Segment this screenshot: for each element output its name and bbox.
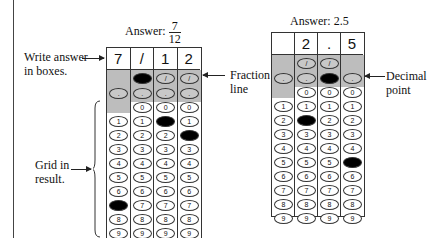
digit-bubble-1[interactable]: 1 — [133, 116, 152, 127]
digit-bubble-3[interactable]: 3 — [133, 144, 152, 155]
decimal-bubble[interactable]: . — [343, 73, 362, 84]
fraction-bubble-filled[interactable] — [133, 73, 152, 84]
digit-bubble-6[interactable]: 6 — [133, 186, 152, 197]
answer-box-3[interactable]: . — [318, 33, 341, 55]
fraction-line-note: Fraction line — [230, 68, 270, 96]
decimal-bubble-filled[interactable] — [320, 73, 339, 84]
digit-bubble-filled-2[interactable] — [180, 130, 199, 141]
answer-box-1[interactable]: 7 — [107, 48, 131, 70]
digit-bubble-7[interactable]: 7 — [156, 200, 175, 211]
digit-bubble-7[interactable]: 7 — [343, 185, 362, 196]
digit-bubble-3[interactable]: 3 — [343, 129, 362, 140]
digit-bubble-6[interactable]: 6 — [297, 171, 316, 182]
digit-bubble-4[interactable]: 4 — [180, 158, 199, 169]
digit-bubble-9[interactable]: 9 — [320, 213, 339, 224]
digit-bubble-0[interactable]: 0 — [156, 102, 175, 113]
digit-bubble-5[interactable]: 5 — [297, 157, 316, 168]
digit-bubble-6[interactable]: 6 — [180, 186, 199, 197]
digit-bubble-0[interactable]: 0 — [320, 87, 339, 98]
digit-bubble-2[interactable]: 2 — [343, 115, 362, 126]
digit-bubble-4[interactable]: 4 — [297, 143, 316, 154]
digit-bubble-6[interactable]: 6 — [320, 171, 339, 182]
digit-bubble-0[interactable]: 0 — [133, 102, 152, 113]
digit-bubble-8[interactable]: 8 — [133, 214, 152, 225]
digit-bubble-5[interactable]: 5 — [180, 172, 199, 183]
answer-box-4[interactable]: 2 — [178, 48, 201, 70]
digit-bubble-1[interactable]: 1 — [180, 116, 199, 127]
answer-box-2[interactable]: 2 — [295, 33, 318, 55]
decimal-bubble[interactable]: . — [180, 88, 199, 99]
digit-bubble-1[interactable]: 1 — [343, 101, 362, 112]
digit-bubble-4[interactable]: 4 — [320, 143, 339, 154]
note-line-2: in boxes. — [24, 64, 88, 78]
fraction-bubble[interactable]: / — [320, 58, 339, 69]
digit-bubble-5[interactable]: 5 — [274, 157, 293, 168]
digit-bubble-1[interactable]: 1 — [109, 116, 128, 127]
fraction-bubble[interactable]: / — [297, 58, 316, 69]
digit-bubble-9[interactable]: 9 — [274, 213, 293, 224]
digit-bubble-7[interactable]: 7 — [180, 200, 199, 211]
digit-bubble-9[interactable]: 9 — [109, 228, 128, 238]
digit-bubble-3[interactable]: 3 — [156, 144, 175, 155]
digit-bubble-3[interactable]: 3 — [109, 144, 128, 155]
digit-bubble-6[interactable]: 6 — [109, 186, 128, 197]
digit-bubble-1[interactable]: 1 — [274, 101, 293, 112]
digit-bubble-8[interactable]: 8 — [343, 199, 362, 210]
digit-bubble-4[interactable]: 4 — [156, 158, 175, 169]
digit-bubble-9[interactable]: 9 — [180, 228, 199, 238]
zero-row-blank — [107, 102, 131, 113]
digit-bubble-5[interactable]: 5 — [109, 172, 128, 183]
digit-bubble-1[interactable]: 1 — [297, 101, 316, 112]
digit-bubble-4[interactable]: 4 — [109, 158, 128, 169]
digit-bubble-7[interactable]: 7 — [320, 185, 339, 196]
fraction-bubble[interactable]: / — [180, 73, 199, 84]
digit-bubble-9[interactable]: 9 — [297, 213, 316, 224]
digit-bubble-filled-2[interactable] — [297, 115, 316, 126]
digit-bubble-7[interactable]: 7 — [274, 185, 293, 196]
digit-bubble-7[interactable]: 7 — [133, 200, 152, 211]
answer-box-2[interactable]: / — [131, 48, 155, 70]
digit-bubble-8[interactable]: 8 — [180, 214, 199, 225]
digit-bubble-8[interactable]: 8 — [320, 199, 339, 210]
digit-bubble-filled-5[interactable] — [343, 157, 362, 168]
digit-bubble-6[interactable]: 6 — [156, 186, 175, 197]
digit-bubble-9[interactable]: 9 — [133, 228, 152, 238]
digit-bubble-0[interactable]: 0 — [180, 102, 199, 113]
digit-bubble-8[interactable]: 8 — [156, 214, 175, 225]
digit-bubble-0[interactable]: 0 — [297, 87, 316, 98]
grid-in-note: Grid in result. — [35, 158, 69, 186]
digit-bubble-3[interactable]: 3 — [274, 129, 293, 140]
decimal-bubble[interactable]: . — [297, 73, 316, 84]
digit-bubble-3[interactable]: 3 — [180, 144, 199, 155]
answer-box-3[interactable]: 1 — [154, 48, 178, 70]
digit-bubble-2[interactable]: 2 — [320, 115, 339, 126]
digit-bubble-filled-1[interactable] — [156, 116, 175, 127]
digit-bubble-4[interactable]: 4 — [343, 143, 362, 154]
digit-bubble-8[interactable]: 8 — [109, 214, 128, 225]
digit-bubble-1[interactable]: 1 — [320, 101, 339, 112]
digit-bubble-8[interactable]: 8 — [274, 199, 293, 210]
decimal-bubble[interactable]: . — [274, 73, 293, 84]
digit-bubble-3[interactable]: 3 — [320, 129, 339, 140]
digit-bubble-8[interactable]: 8 — [297, 199, 316, 210]
digit-bubble-2[interactable]: 2 — [274, 115, 293, 126]
digit-bubble-5[interactable]: 5 — [133, 172, 152, 183]
digit-bubble-2[interactable]: 2 — [133, 130, 152, 141]
digit-bubble-0[interactable]: 0 — [343, 87, 362, 98]
digit-bubble-3[interactable]: 3 — [297, 129, 316, 140]
digit-bubble-4[interactable]: 4 — [133, 158, 152, 169]
digit-bubble-9[interactable]: 9 — [343, 213, 362, 224]
digit-bubble-9[interactable]: 9 — [156, 228, 175, 238]
decimal-bubble[interactable]: . — [133, 88, 152, 99]
digit-bubble-6[interactable]: 6 — [274, 171, 293, 182]
digit-bubble-7[interactable]: 7 — [297, 185, 316, 196]
digit-bubble-5[interactable]: 5 — [156, 172, 175, 183]
digit-bubble-2[interactable]: 2 — [109, 130, 128, 141]
digit-bubble-2[interactable]: 2 — [156, 130, 175, 141]
answer-box-1[interactable] — [272, 33, 295, 55]
digit-bubble-5[interactable]: 5 — [320, 157, 339, 168]
digit-bubble-6[interactable]: 6 — [343, 171, 362, 182]
digit-bubble-4[interactable]: 4 — [274, 143, 293, 154]
answer-box-4[interactable]: 5 — [341, 33, 363, 55]
digit-bubble-filled-7[interactable] — [109, 200, 128, 211]
